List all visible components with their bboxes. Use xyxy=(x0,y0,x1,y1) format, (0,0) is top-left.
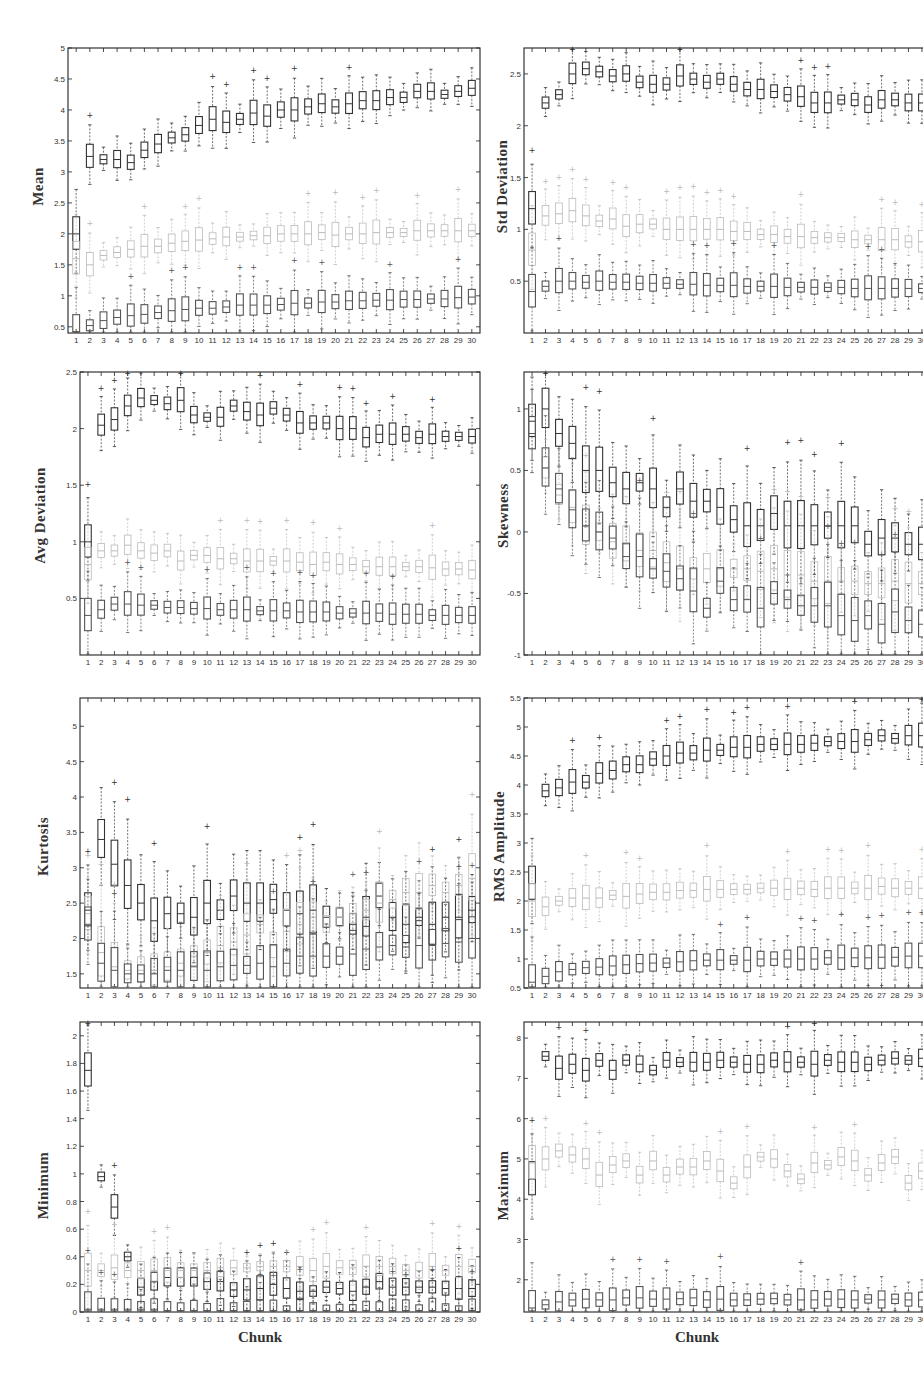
svg-text:3: 3 xyxy=(112,991,117,1000)
svg-text:8: 8 xyxy=(624,991,629,1000)
svg-text:2: 2 xyxy=(99,991,104,1000)
svg-text:+: + xyxy=(623,183,630,192)
svg-text:5: 5 xyxy=(139,991,144,1000)
chart-rms-amplitude: 0.511.522.533.544.555.512345678910111213… xyxy=(480,698,920,1010)
svg-text:13: 13 xyxy=(242,658,251,667)
svg-text:1.5: 1.5 xyxy=(510,926,522,935)
svg-text:9: 9 xyxy=(637,1315,642,1324)
svg-text:+: + xyxy=(86,111,93,120)
svg-text:+: + xyxy=(98,384,105,393)
svg-text:+: + xyxy=(177,369,184,378)
svg-text:+: + xyxy=(596,733,603,742)
chart-std-deviation: 0.511.522.512345678910111213141516171819… xyxy=(480,48,920,353)
svg-text:12: 12 xyxy=(229,1315,238,1324)
svg-text:+: + xyxy=(469,1267,476,1276)
svg-text:2.5: 2.5 xyxy=(66,368,78,377)
svg-text:+: + xyxy=(703,241,710,250)
svg-text:4: 4 xyxy=(570,336,575,345)
svg-text:1.6: 1.6 xyxy=(66,1087,78,1096)
svg-text:11: 11 xyxy=(662,658,671,667)
svg-text:+: + xyxy=(690,240,697,249)
svg-text:20: 20 xyxy=(783,991,792,1000)
svg-text:+: + xyxy=(124,795,131,804)
svg-text:8: 8 xyxy=(517,1034,522,1043)
svg-text:13: 13 xyxy=(689,1315,698,1324)
svg-text:27: 27 xyxy=(877,658,886,667)
svg-text:+: + xyxy=(141,202,148,211)
svg-text:+: + xyxy=(310,877,317,886)
svg-text:2: 2 xyxy=(61,230,66,239)
svg-text:19: 19 xyxy=(322,991,331,1000)
svg-text:28: 28 xyxy=(441,658,450,667)
svg-text:23: 23 xyxy=(823,658,832,667)
svg-text:23: 23 xyxy=(823,991,832,1000)
svg-text:18: 18 xyxy=(304,336,313,345)
svg-text:4: 4 xyxy=(125,991,130,1000)
svg-text:24: 24 xyxy=(386,336,395,345)
svg-text:+: + xyxy=(283,851,290,860)
svg-text:6: 6 xyxy=(152,991,157,1000)
svg-text:16: 16 xyxy=(282,658,291,667)
svg-text:+: + xyxy=(376,827,383,836)
svg-text:27: 27 xyxy=(428,658,437,667)
svg-text:+: + xyxy=(257,517,264,526)
svg-text:23: 23 xyxy=(372,336,381,345)
svg-text:30: 30 xyxy=(917,336,923,345)
svg-text:+: + xyxy=(429,1265,436,1274)
svg-text:+: + xyxy=(111,376,118,385)
svg-text:14: 14 xyxy=(702,1315,711,1324)
svg-text:8: 8 xyxy=(178,1315,183,1324)
svg-text:+: + xyxy=(363,868,370,877)
svg-text:+: + xyxy=(182,202,189,211)
svg-text:+: + xyxy=(85,480,92,489)
svg-text:+: + xyxy=(124,369,131,378)
svg-text:3: 3 xyxy=(557,991,562,1000)
svg-text:+: + xyxy=(556,234,563,243)
svg-text:29: 29 xyxy=(454,658,463,667)
svg-text:3: 3 xyxy=(112,1315,117,1324)
svg-text:10: 10 xyxy=(195,336,204,345)
svg-text:+: + xyxy=(332,188,339,197)
svg-text:+: + xyxy=(878,550,885,559)
svg-text:4.5: 4.5 xyxy=(66,758,78,767)
svg-text:+: + xyxy=(111,880,118,889)
svg-text:15: 15 xyxy=(263,336,272,345)
svg-text:14: 14 xyxy=(256,991,265,1000)
svg-text:2.5: 2.5 xyxy=(54,199,66,208)
svg-text:+: + xyxy=(892,198,899,207)
svg-text:0.5: 0.5 xyxy=(66,594,78,603)
svg-text:+: + xyxy=(529,1116,536,1125)
svg-text:+: + xyxy=(542,177,549,186)
svg-text:29: 29 xyxy=(904,1315,913,1324)
svg-text:+: + xyxy=(824,845,831,854)
svg-text:+: + xyxy=(349,384,356,393)
svg-text:6: 6 xyxy=(152,658,157,667)
svg-text:+: + xyxy=(609,1255,616,1264)
svg-text:+: + xyxy=(270,569,277,578)
svg-text:+: + xyxy=(250,66,257,75)
boxplot-svg: 1.522.533.544.55123456789101112131415161… xyxy=(20,698,482,1008)
svg-text:26: 26 xyxy=(415,991,424,1000)
svg-text:9: 9 xyxy=(192,991,197,1000)
svg-text:+: + xyxy=(919,695,923,704)
svg-text:30: 30 xyxy=(468,1315,477,1324)
svg-text:+: + xyxy=(349,870,356,879)
svg-text:4: 4 xyxy=(61,106,66,115)
svg-text:+: + xyxy=(416,857,423,866)
svg-text:+: + xyxy=(389,392,396,401)
svg-text:1: 1 xyxy=(73,1170,78,1179)
svg-text:5: 5 xyxy=(517,1155,522,1164)
svg-text:22: 22 xyxy=(810,1315,819,1324)
svg-text:30: 30 xyxy=(917,1315,923,1324)
svg-text:7: 7 xyxy=(517,1074,522,1083)
svg-text:+: + xyxy=(582,451,589,460)
svg-text:28: 28 xyxy=(891,658,900,667)
svg-text:24: 24 xyxy=(837,336,846,345)
svg-text:16: 16 xyxy=(282,1315,291,1324)
svg-text:+: + xyxy=(363,569,370,578)
svg-text:+: + xyxy=(878,195,885,204)
svg-text:2: 2 xyxy=(543,1315,548,1324)
svg-text:1: 1 xyxy=(530,1315,535,1324)
svg-text:+: + xyxy=(919,845,923,854)
svg-text:3: 3 xyxy=(517,1236,522,1245)
